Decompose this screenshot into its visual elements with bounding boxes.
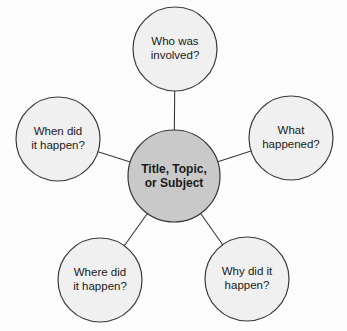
- circle-why-did-it-happen[interactable]: [205, 237, 289, 321]
- diagram-canvas: [0, 0, 347, 331]
- web-diagram: Who was involved? What happened? Why did…: [0, 0, 347, 331]
- circle-layer: [16, 7, 333, 322]
- circle-who-was-involved[interactable]: [133, 7, 217, 91]
- circle-when-did-it-happen[interactable]: [16, 97, 100, 181]
- circle-title-topic-or-subject[interactable]: [128, 130, 220, 222]
- connector-hub-when: [98, 152, 130, 162]
- connector-hub-why: [201, 214, 223, 245]
- connector-hub-where: [124, 213, 147, 245]
- circle-what-happened[interactable]: [249, 96, 333, 180]
- circle-where-did-it-happen[interactable]: [58, 238, 142, 322]
- connector-hub-what: [218, 151, 251, 162]
